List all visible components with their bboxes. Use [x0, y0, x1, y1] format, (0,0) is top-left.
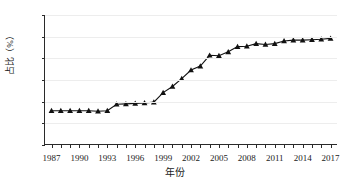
x-tick-mark [182, 144, 183, 148]
gridline-y [45, 15, 337, 16]
x-tick-mark [163, 144, 164, 148]
y-tick-mark [42, 102, 45, 103]
x-tick-mark [228, 144, 229, 148]
gridline-y [45, 37, 337, 38]
gridline-y [45, 80, 337, 81]
x-tick-mark [117, 144, 118, 148]
x-tick-mark [79, 144, 80, 148]
x-axis-title: 年份 [0, 164, 349, 179]
y-tick-mark [42, 80, 45, 81]
x-tick-mark [61, 144, 62, 148]
x-tick-mark [210, 144, 211, 148]
y-tick-mark [42, 145, 45, 146]
x-tick-mark [107, 144, 108, 148]
y-tick-mark [42, 37, 45, 38]
x-tick-mark [145, 144, 146, 148]
y-tick-mark [42, 15, 45, 16]
x-tick-mark [219, 144, 220, 148]
x-tick-mark [265, 144, 266, 148]
x-tick-mark [256, 144, 257, 148]
plot-area: 0510152025301987199019931996199920022005… [44, 15, 337, 145]
x-tick-mark [284, 144, 285, 148]
gridline-y [45, 123, 337, 124]
x-tick-mark [275, 144, 276, 148]
series-line [52, 38, 331, 111]
data-point-marker [225, 49, 231, 54]
x-tick-mark [247, 144, 248, 148]
x-tick-mark [303, 144, 304, 148]
x-tick-mark [89, 144, 90, 148]
x-tick-mark [191, 144, 192, 148]
x-tick-mark [98, 144, 99, 148]
data-point-marker [160, 90, 166, 95]
chart-container: 占比（%） 0510152025301987199019931996199920… [0, 0, 349, 189]
x-tick-mark [52, 144, 53, 148]
y-axis-title: 占比（%） [3, 23, 19, 83]
x-tick-mark [126, 144, 127, 148]
x-tick-mark [200, 144, 201, 148]
gridline-y [45, 102, 337, 103]
x-tick-mark [331, 144, 332, 148]
y-tick-mark [42, 58, 45, 59]
x-tick-label: 2017 [311, 153, 349, 163]
x-tick-mark [172, 144, 173, 148]
y-tick-mark [42, 123, 45, 124]
x-tick-mark [312, 144, 313, 148]
x-tick-mark [321, 144, 322, 148]
x-tick-mark [293, 144, 294, 148]
x-tick-mark [154, 144, 155, 148]
gridline-y [45, 58, 337, 59]
x-tick-mark [135, 144, 136, 148]
x-tick-mark [238, 144, 239, 148]
x-tick-mark [70, 144, 71, 148]
